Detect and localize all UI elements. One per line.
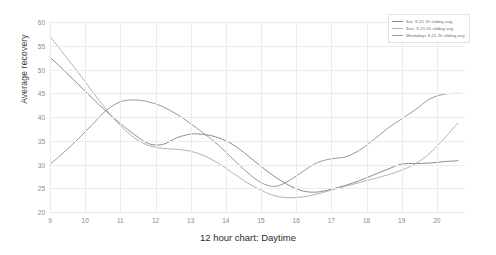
- x-axis-tick-label: 11: [117, 217, 124, 224]
- chart-legend: Sat. 9-21 2h sliding avgSun. 9-21 2h sli…: [388, 14, 470, 43]
- gridline-vertical: [402, 22, 403, 212]
- x-axis-tick-label: 14: [222, 217, 229, 224]
- gridline-vertical: [50, 22, 51, 212]
- gridline-horizontal: [50, 70, 465, 71]
- y-axis-tick-label: 55: [38, 42, 45, 49]
- gridline-vertical: [85, 22, 86, 212]
- gridline-horizontal: [50, 117, 465, 118]
- gridline-vertical: [156, 22, 157, 212]
- x-axis-tick-label: 12: [152, 217, 159, 224]
- gridline-horizontal: [50, 212, 465, 213]
- gridline-vertical: [367, 22, 368, 212]
- gridline-vertical: [331, 22, 332, 212]
- x-axis-title: 12 hour chart: Daytime: [0, 232, 496, 243]
- y-axis-tick-label: 35: [38, 137, 45, 144]
- legend-item-label: Sat. 9-21 2h sliding avg: [406, 19, 452, 24]
- x-axis-tick-label: 17: [328, 217, 335, 224]
- plot-area: 2025303540455055609101112131415161718192…: [50, 22, 465, 212]
- legend-color-swatch: [392, 21, 403, 23]
- x-axis-tick-label: 19: [398, 217, 405, 224]
- gridline-vertical: [296, 22, 297, 212]
- x-axis-tick-label: 15: [257, 217, 264, 224]
- y-axis-tick-label: 20: [38, 209, 45, 216]
- legend-color-swatch: [392, 35, 403, 37]
- gridline-vertical: [120, 22, 121, 212]
- x-axis-tick-label: 20: [433, 217, 440, 224]
- y-axis-tick-label: 45: [38, 90, 45, 97]
- gridline-horizontal: [50, 188, 465, 189]
- y-axis-tick-label: 25: [38, 185, 45, 192]
- y-axis-tick-label: 50: [38, 66, 45, 73]
- x-axis-tick-label: 10: [82, 217, 89, 224]
- legend-item[interactable]: Sun. 9-21 2h sliding avg: [392, 25, 465, 32]
- y-axis-tick-label: 60: [38, 19, 45, 26]
- gridline-horizontal: [50, 165, 465, 166]
- legend-item-label: Sun. 9-21 2h sliding avg: [406, 26, 453, 31]
- x-axis-tick-label: 16: [293, 217, 300, 224]
- x-axis-tick-label: 18: [363, 217, 370, 224]
- x-axis-tick-label: 13: [187, 217, 194, 224]
- gridline-vertical: [226, 22, 227, 212]
- legend-item[interactable]: Weekdays 9-21 2h sliding avg: [392, 32, 465, 39]
- gridline-vertical: [191, 22, 192, 212]
- gridline-vertical: [261, 22, 262, 212]
- gridline-horizontal: [50, 93, 465, 94]
- legend-item[interactable]: Sat. 9-21 2h sliding avg: [392, 18, 465, 25]
- chart-container: Average recovery 12 hour chart: Daytime …: [0, 0, 496, 255]
- gridline-horizontal: [50, 141, 465, 142]
- y-axis-tick-label: 40: [38, 114, 45, 121]
- legend-color-swatch: [392, 28, 403, 30]
- gridline-horizontal: [50, 46, 465, 47]
- x-axis-tick-label: 9: [48, 217, 52, 224]
- gridline-vertical: [437, 22, 438, 212]
- y-axis-tick-label: 30: [38, 161, 45, 168]
- legend-item-label: Weekdays 9-21 2h sliding avg: [406, 33, 465, 38]
- y-axis-title: Average recovery: [19, 0, 29, 139]
